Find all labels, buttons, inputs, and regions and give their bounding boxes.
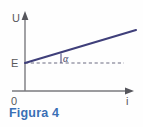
intercept-label-e: E [11,57,18,69]
characteristic-line [25,30,136,63]
y-axis-label: U [12,12,20,24]
y-axis-arrow-icon [22,11,29,20]
figure-container: U i E 0 α Figura 4 [0,0,143,127]
x-axis-label: i [126,95,128,107]
angle-label-alpha: α [63,53,69,64]
figure-caption: Figura 4 [9,106,59,120]
x-axis-arrow-icon [125,88,134,95]
